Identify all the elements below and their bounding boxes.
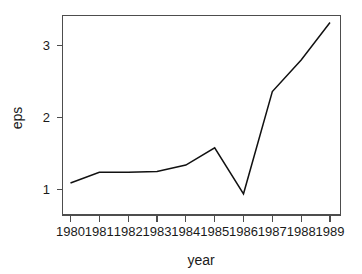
x-tick-label-1982: 1982 <box>114 224 143 239</box>
x-tick-label-1986: 1986 <box>229 224 258 239</box>
x-tick-label-1989: 1989 <box>316 224 345 239</box>
x-tick-label-1983: 1983 <box>143 224 172 239</box>
x-axis-title: year <box>187 252 215 268</box>
x-axis-tick-labels: 1980 1981 1982 1983 1984 1985 1986 1987 … <box>56 224 344 239</box>
eps-by-year-line-chart: 3 2 1 1980 1981 1982 1983 1984 1985 1986 <box>0 0 362 274</box>
x-tick-label-1988: 1988 <box>287 224 316 239</box>
x-tick-label-1987: 1987 <box>258 224 287 239</box>
chart-container: 3 2 1 1980 1981 1982 1983 1984 1985 1986 <box>0 0 362 274</box>
y-tick-label-3: 3 <box>43 38 50 53</box>
y-tick-label-2: 2 <box>43 110 50 125</box>
y-tick-label-1: 1 <box>43 182 50 197</box>
x-tick-label-1981: 1981 <box>85 224 114 239</box>
x-tick-label-1980: 1980 <box>56 224 85 239</box>
x-tick-label-1985: 1985 <box>200 224 229 239</box>
x-tick-label-1984: 1984 <box>171 224 200 239</box>
y-axis-title: eps <box>9 107 25 130</box>
